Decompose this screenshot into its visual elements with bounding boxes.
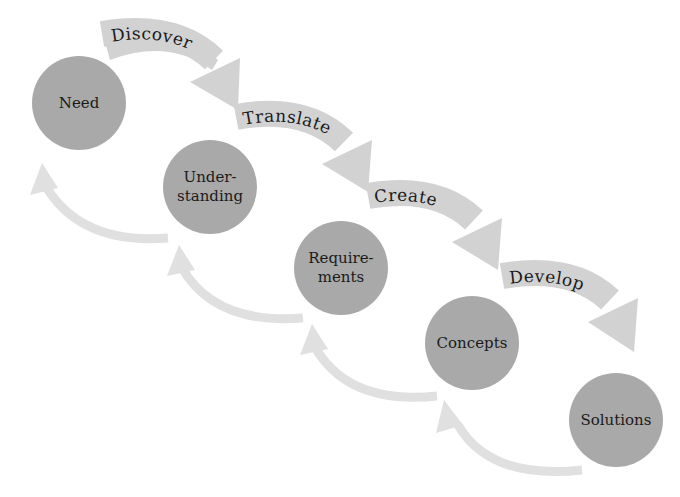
- node-need: Need: [32, 56, 126, 150]
- node-solutions: Solutions: [569, 373, 663, 467]
- node-requirements: Require- ments: [294, 221, 388, 315]
- node-label-understanding-line1: Under-: [183, 168, 236, 186]
- node-label-need: Need: [59, 94, 100, 112]
- node-label-solutions: Solutions: [581, 411, 652, 429]
- arrow-label-translate: Translate: [241, 106, 335, 139]
- process-flow-diagram: Discover Translate Create Develop Need U…: [0, 0, 680, 497]
- node-concepts: Concepts: [425, 296, 519, 390]
- forward-arrow-develop: Develop: [502, 266, 638, 352]
- node-label-concepts: Concepts: [437, 334, 508, 352]
- forward-arrow-create: Create: [368, 185, 502, 270]
- back-arrow-understanding-to-need: [30, 163, 168, 239]
- node-label-requirements-line1: Require-: [308, 249, 373, 267]
- back-arrow-requirements-to-understanding: [167, 245, 303, 319]
- forward-arrow-translate: Translate: [236, 106, 372, 192]
- node-understanding: Under- standing: [163, 140, 257, 234]
- back-arrow-solutions-to-concepts: [436, 400, 582, 472]
- node-label-understanding-line2: standing: [177, 187, 243, 205]
- back-arrow-concepts-to-requirements: [300, 324, 437, 397]
- node-label-requirements-line2: ments: [318, 268, 365, 286]
